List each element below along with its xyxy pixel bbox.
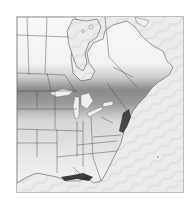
map-frame xyxy=(16,16,184,193)
map-canvas xyxy=(17,17,184,193)
island-dot xyxy=(157,156,159,158)
